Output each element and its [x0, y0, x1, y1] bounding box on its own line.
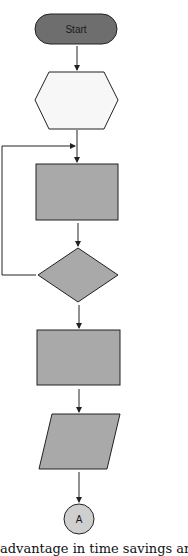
flowchart: Start A [0, 0, 188, 556]
connector-circle: A [64, 504, 94, 534]
io-parallelogram [39, 414, 120, 469]
process-rectangle-1 [36, 164, 118, 220]
caption-text: advantage in time savings and cos [0, 541, 188, 556]
connector-label: A [76, 514, 83, 525]
process-rectangle-2 [37, 330, 120, 385]
preparation-hexagon [35, 72, 118, 129]
decision-diamond [38, 248, 118, 302]
start-terminator: Start [35, 14, 117, 44]
start-label: Start [65, 24, 86, 35]
